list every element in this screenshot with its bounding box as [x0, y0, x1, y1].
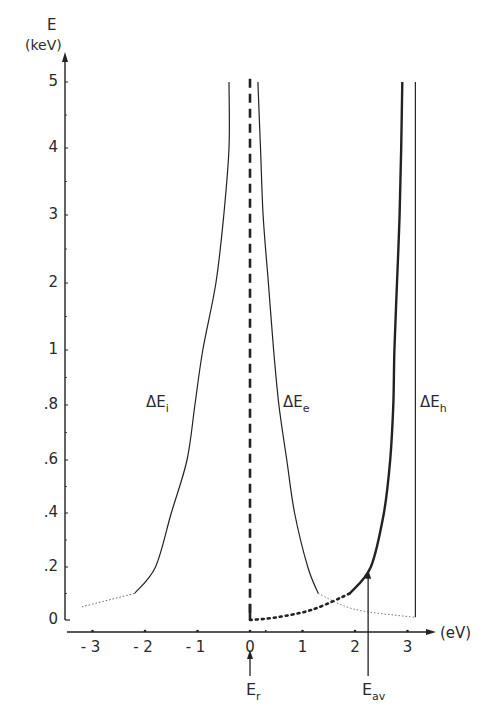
- curve-delta-e-i: [135, 82, 230, 594]
- label-sub: h: [440, 402, 447, 415]
- y-axis-arrow-icon: [62, 52, 68, 62]
- x-tick: [144, 630, 147, 633]
- x-axis-arrow-icon: [426, 629, 436, 635]
- x-tick: [91, 630, 94, 633]
- x-tick-label: - 1: [186, 640, 206, 655]
- x-tick: [354, 630, 357, 633]
- label-e-r: Er: [246, 682, 261, 698]
- y-tick-label: 5: [48, 74, 58, 89]
- label-main: E: [246, 680, 256, 699]
- label-e-av: Eav: [362, 682, 385, 698]
- y-tick-label: 4: [48, 140, 58, 155]
- x-axis-unit: (eV): [440, 626, 471, 641]
- label-main: ΔE: [420, 393, 440, 411]
- chart-canvas: [0, 0, 490, 715]
- label-delta-e-e: ΔEe: [283, 395, 310, 410]
- y-tick-label: 0: [48, 612, 58, 627]
- y-tick-label: .4: [44, 505, 58, 520]
- y-tick-label: 3: [48, 207, 58, 222]
- x-minor-tick: [265, 630, 267, 632]
- x-tick: [406, 630, 409, 633]
- label-main: ΔE: [146, 393, 166, 411]
- x-tick: [249, 630, 252, 633]
- x-tick-label: 2: [350, 640, 360, 655]
- curve-thick-solid: [350, 82, 403, 594]
- label-sub: av: [372, 690, 385, 703]
- label-main: ΔE: [283, 393, 303, 411]
- y-tick-label: .2: [44, 559, 58, 574]
- y-tick-label: .6: [44, 452, 58, 467]
- x-tick: [196, 630, 199, 633]
- curve-delta-e-e-dotted: [318, 594, 415, 618]
- x-tick-label: - 2: [133, 640, 153, 655]
- label-delta-e-i: ΔEi: [146, 395, 169, 410]
- curve-delta-e-e: [258, 82, 318, 594]
- y-tick-label: 1: [48, 342, 58, 357]
- label-main: E: [362, 680, 372, 699]
- curve-thick-dotted: [250, 594, 350, 621]
- y-axis-unit: (keV): [25, 38, 62, 52]
- x-tick-label: - 3: [81, 640, 101, 655]
- x-tick: [301, 630, 304, 633]
- y-tick-label: .8: [44, 397, 58, 412]
- label-sub: r: [256, 690, 261, 703]
- y-tick-label: 2: [48, 275, 58, 290]
- x-tick-label: 3: [403, 640, 413, 655]
- label-sub: e: [303, 402, 310, 415]
- label-delta-e-h: ΔEh: [420, 395, 447, 410]
- x-tick-label: 1: [298, 640, 308, 655]
- x-tick-label: 0: [245, 640, 255, 655]
- curve-delta-e-i-dotted: [82, 594, 135, 607]
- label-sub: i: [166, 402, 169, 415]
- y-axis-title: E: [47, 18, 56, 33]
